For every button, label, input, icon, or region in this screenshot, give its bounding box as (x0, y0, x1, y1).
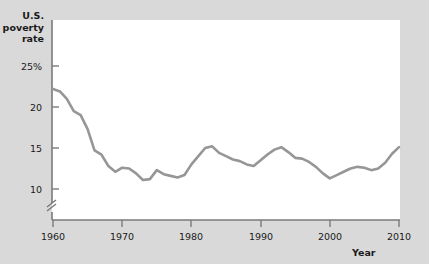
y-tick-marks (52, 66, 59, 189)
x-tick-label-2010: 2010 (376, 231, 422, 242)
y-tick-label-15: 15 (4, 143, 42, 154)
x-tick-label-1980: 1980 (168, 231, 214, 242)
poverty-rate-line (53, 89, 399, 180)
chart-svg (0, 0, 429, 264)
x-tick-label-1990: 1990 (238, 231, 284, 242)
y-tick-label-20: 20 (4, 102, 42, 113)
x-tick-label-1970: 1970 (99, 231, 145, 242)
x-tick-label-1960: 1960 (30, 231, 76, 242)
chart-figure: U.S. poverty rate 25% 20 15 10 (0, 0, 429, 264)
y-tick-label-25: 25% (4, 61, 42, 72)
y-tick-label-10: 10 (4, 184, 42, 195)
x-tick-marks (53, 220, 399, 227)
x-axis-title: Year (352, 247, 412, 258)
x-tick-label-2000: 2000 (307, 231, 353, 242)
